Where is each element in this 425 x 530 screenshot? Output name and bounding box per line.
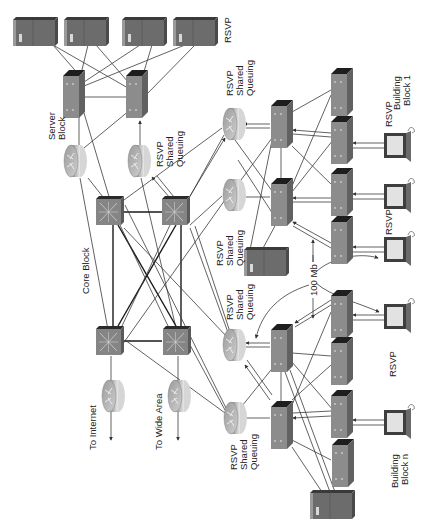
bbn-access-switch-1	[331, 290, 353, 338]
bb1-distribution-switch-2	[271, 178, 293, 226]
label-rsvp-shared-queuing-bbn-1: RSVP Shared Queuing	[224, 284, 255, 320]
bb1-access-switch-3	[331, 168, 353, 216]
server-3	[122, 17, 167, 46]
server-block-router-2	[128, 145, 151, 177]
label-to-wide-area: To Wide Area	[153, 393, 164, 450]
server-bbn	[310, 490, 355, 519]
bb1-access-switch-4	[331, 216, 353, 264]
core-switch-2	[162, 196, 190, 225]
bbn-router-2	[224, 402, 247, 434]
core-switch-4	[163, 326, 191, 355]
bb1-access-switch-1	[331, 68, 353, 116]
bbn-access-switch-3	[331, 390, 353, 438]
server-1	[13, 17, 58, 46]
workstation-4	[384, 298, 415, 333]
label-rsvp-shared-queuing-bbn-2: RSVP Shared Queuing	[228, 434, 259, 470]
workstation-3	[384, 231, 415, 266]
label-building-block-1: Building Block 1	[391, 74, 412, 110]
server-2	[64, 17, 109, 46]
server-block-switch-2	[126, 70, 148, 118]
label-rsvp-bb1-2: RSVP	[383, 209, 394, 235]
label-rsvp-shared-queuing-bb1-2: RSVP Shared Queuing	[214, 230, 245, 266]
bbn-router-1	[223, 329, 246, 361]
internet-router	[102, 380, 125, 412]
core-switch-1	[96, 196, 124, 225]
label-100mb: 100 Mb	[308, 264, 319, 296]
server-block-switch-1	[63, 70, 85, 118]
network-diagram: Server Block RSVP Shared Queuing RSVP Co…	[0, 0, 425, 530]
wide-area-router	[168, 380, 191, 412]
bbn-access-switch-2	[331, 337, 353, 385]
bbn-distribution-switch-2	[271, 401, 293, 449]
label-rsvp-shared-queuing-bb1-1: RSVP Shared Queuing	[224, 60, 255, 96]
workstation-1	[384, 127, 415, 162]
label-core-block: Core Block	[80, 247, 91, 294]
bb1-router-1	[223, 108, 246, 140]
workstation-2	[384, 178, 415, 213]
bb1-distribution-switch-1	[271, 100, 293, 148]
label-to-internet: To Internet	[87, 405, 98, 450]
bbn-distribution-switch-1	[271, 324, 293, 372]
server-bb1	[244, 247, 289, 276]
label-rsvp-bbn: RSVP	[387, 351, 398, 377]
bbn-access-switch-4	[332, 439, 354, 487]
label-building-block-n: Building Block n	[389, 452, 410, 488]
core-switch-3	[96, 326, 124, 355]
workstation-5	[384, 404, 415, 439]
server-block-router-1	[64, 145, 87, 177]
label-rsvp-shared-queuing-server: RSVP Shared Queuing	[154, 131, 185, 167]
bb1-router-2	[223, 179, 246, 211]
label-rsvp-servers: RSVP	[222, 17, 233, 43]
server-4	[173, 17, 218, 46]
bb1-access-switch-2	[331, 116, 353, 164]
